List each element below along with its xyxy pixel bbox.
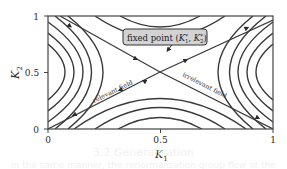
y-axis-label: K2: [9, 66, 24, 80]
x-tick-1: 1: [270, 135, 276, 145]
bleed-through-heading: 3.2 Generalisation: [0, 146, 287, 159]
irrelevant-field-label: irrelevant field: [181, 71, 228, 100]
fixed-point-label: fixed point (K*1, K*2): [123, 29, 207, 45]
rg-flow-diagram: fixed point (K*1, K*2) relevant field ir…: [0, 0, 287, 169]
x-tick-0: 0: [45, 135, 51, 145]
svg-text:fixed point (K*1, K*2): fixed point (K*1, K*2): [127, 33, 207, 44]
y-tick-1: 1: [33, 12, 39, 22]
x-tick-0.5: 0.5: [153, 135, 168, 145]
arrow-icon: [144, 81, 150, 84]
y-tick-0: 0: [33, 125, 39, 135]
relevant-field-label: relevant field: [91, 78, 134, 104]
y-tick-0.5: 0.5: [25, 68, 40, 78]
bleed-through-text: in the same manner, the renormalisation …: [0, 160, 287, 169]
